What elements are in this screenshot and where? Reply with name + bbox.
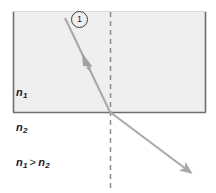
medium-upper-region bbox=[13, 11, 206, 112]
inequality-left-symbol: n bbox=[16, 156, 23, 168]
inequality-left-subscript: 1 bbox=[23, 161, 28, 170]
label-refractive-index-n1: n1 bbox=[16, 86, 28, 98]
label-refractive-index-n2: n2 bbox=[16, 121, 28, 133]
label-n2-symbol: n bbox=[16, 121, 23, 133]
label-n1-symbol: n bbox=[16, 86, 23, 98]
label-n2-subscript: 2 bbox=[23, 126, 28, 135]
label-n1-subscript: 1 bbox=[23, 91, 28, 100]
inequality-operator: > bbox=[28, 156, 39, 168]
inequality-right-subscript: 2 bbox=[45, 161, 50, 170]
ray-number-badge: 1 bbox=[71, 11, 88, 28]
refraction-diagram: 1 n1 n2 n1>n2 bbox=[0, 0, 216, 193]
refracted-ray bbox=[110, 112, 188, 171]
label-inequality: n1>n2 bbox=[16, 156, 50, 168]
